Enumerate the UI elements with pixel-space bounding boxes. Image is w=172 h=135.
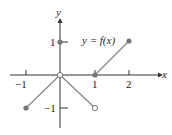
function-graph: −1 1 2 1 −1 x y y = f(x) xyxy=(0,0,172,135)
point-open-0-0 xyxy=(57,72,62,77)
tick-label-x-neg1: −1 xyxy=(15,78,27,90)
function-label: y = f(x) xyxy=(81,34,115,47)
point-open-1-neg1 xyxy=(92,105,97,110)
segment-middle-falling xyxy=(60,75,95,108)
tick-label-x-1: 1 xyxy=(92,78,98,90)
segment-right-rising xyxy=(95,41,129,75)
y-axis-arrow-icon xyxy=(58,18,63,23)
x-axis-label: x xyxy=(161,68,167,80)
tick-label-x-2: 2 xyxy=(126,78,132,90)
point-filled-neg1-neg1 xyxy=(23,105,28,110)
tick-label-y-neg1: −1 xyxy=(44,102,56,114)
point-filled-2-1 xyxy=(126,38,131,43)
tick-label-y-1: 1 xyxy=(50,36,56,48)
point-filled-0-1 xyxy=(57,39,62,44)
y-axis-label: y xyxy=(55,6,61,18)
point-filled-1-0 xyxy=(92,72,97,77)
